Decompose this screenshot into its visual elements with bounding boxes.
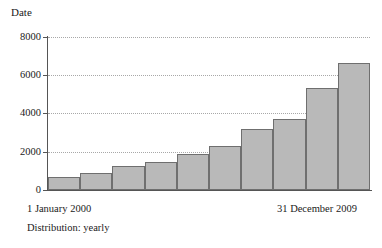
x-axis-line bbox=[47, 190, 372, 191]
bar-2002 bbox=[112, 166, 144, 190]
y-tick-label-8000: 8000 bbox=[20, 31, 41, 42]
y-tick-label-8000-wrap: 8000 bbox=[0, 31, 41, 42]
gridline-8000 bbox=[48, 37, 370, 38]
y-tick-label-6000: 6000 bbox=[20, 69, 41, 80]
chart-title: Date bbox=[11, 6, 32, 18]
plot-area bbox=[48, 37, 370, 190]
bar-2006 bbox=[241, 129, 273, 190]
bar-2000 bbox=[48, 177, 80, 190]
y-tick-label-0: 0 bbox=[36, 184, 41, 195]
bar-2003 bbox=[145, 162, 177, 190]
distribution-caption: Distribution: yearly bbox=[27, 222, 110, 234]
bar-2007 bbox=[273, 119, 305, 190]
bar-2004 bbox=[177, 154, 209, 190]
bar-2001 bbox=[80, 173, 112, 190]
y-tick-label-2000-wrap: 2000 bbox=[0, 146, 41, 157]
y-tick-label-0-wrap: 0 bbox=[0, 184, 41, 195]
y-tick-label-4000-wrap: 4000 bbox=[0, 107, 41, 118]
bar-2005 bbox=[209, 146, 241, 190]
bar-chart: Date 8000 6000 4000 2000 0 1 January 200… bbox=[0, 0, 382, 248]
bar-2009 bbox=[338, 63, 370, 190]
x-axis-end-label: 31 December 2009 bbox=[277, 203, 357, 215]
y-tick-label-2000: 2000 bbox=[20, 146, 41, 157]
gridline-6000 bbox=[48, 75, 370, 76]
x-axis-start-label: 1 January 2000 bbox=[27, 203, 91, 215]
y-tick-label-4000: 4000 bbox=[20, 107, 41, 118]
y-tick-label-6000-wrap: 6000 bbox=[0, 69, 41, 80]
bar-2008 bbox=[306, 88, 338, 190]
